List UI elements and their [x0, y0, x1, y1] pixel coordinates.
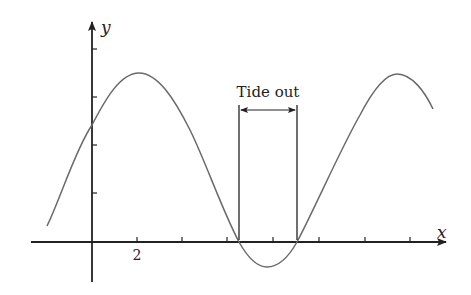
y-axis-label: y [100, 17, 111, 37]
tide-out-label: Tide out [237, 83, 300, 101]
tide-out-annotation: Tide out [237, 83, 300, 240]
tide-curve [47, 73, 433, 267]
x-tick-label-2: 2 [133, 247, 142, 263]
tide-chart: Tide out y x 2 [0, 0, 471, 295]
x-axis-label: x [437, 222, 447, 242]
